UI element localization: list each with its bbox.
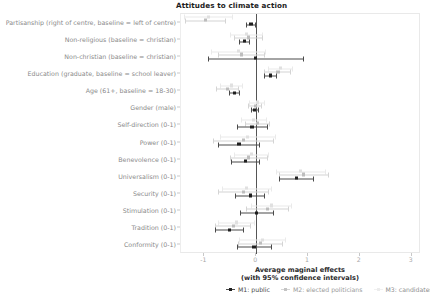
point-estimate-marker — [252, 245, 255, 248]
point-estimate-marker — [249, 22, 252, 25]
estimate-m2-3 — [264, 72, 291, 73]
estimate-m3-10 — [222, 188, 272, 189]
confidence-interval-cap-lo — [230, 32, 231, 37]
legend-item-m2[interactable]: M2: elected politicians — [281, 286, 363, 293]
category-label: Conformity (0-1) — [124, 241, 176, 248]
estimate-m1-11 — [240, 213, 274, 214]
estimate-m3-2 — [211, 51, 266, 52]
estimate-m3-7 — [220, 137, 276, 138]
category-tick-mark — [177, 158, 180, 159]
confidence-interval-cap-lo — [251, 203, 252, 208]
estimate-m1-1 — [239, 41, 250, 42]
confidence-interval-cap-lo — [218, 221, 219, 226]
point-estimate-marker — [249, 194, 252, 197]
confidence-interval-cap-hi — [328, 173, 329, 178]
figure-attitudes-to-climate-action: Attitudes to climate action Partisanship… — [0, 0, 430, 304]
point-estimate-marker — [242, 190, 245, 193]
category-tick-mark — [177, 210, 180, 211]
category-tick-mark — [177, 21, 180, 22]
point-estimate-marker — [269, 74, 272, 77]
plot-area — [180, 13, 420, 253]
confidence-interval-cap-hi — [271, 186, 272, 191]
confidence-interval-cap-hi — [273, 211, 274, 216]
confidence-interval-cap-lo — [240, 211, 241, 216]
category-tick-mark — [177, 73, 180, 74]
confidence-interval-cap-lo — [246, 22, 247, 27]
category-label: Self-direction (0-1) — [117, 121, 176, 128]
category-label: Power (0-1) — [140, 138, 176, 145]
point-estimate-marker — [295, 177, 298, 180]
legend-marker-icon — [226, 287, 235, 292]
legend-label: M3: candidates — [386, 286, 430, 293]
confidence-interval-cap-hi — [285, 238, 286, 243]
x-axis-tick-label: 3 — [409, 256, 413, 263]
confidence-interval-cap-hi — [258, 108, 259, 113]
category-tick-mark — [177, 90, 180, 91]
confidence-interval-cap-hi — [262, 35, 263, 40]
confidence-interval-cap-lo — [237, 125, 238, 130]
estimate-m1-3 — [264, 76, 276, 77]
confidence-interval-cap-lo — [264, 74, 265, 79]
legend-item-m3[interactable]: M3: candidates — [374, 286, 430, 293]
point-estimate-marker — [242, 139, 245, 142]
confidence-interval-cap-hi — [264, 101, 265, 106]
x-axis-title: Average maginal effects (with 95% confid… — [241, 266, 359, 283]
confidence-interval-cap-lo — [268, 66, 269, 71]
estimate-m3-4 — [220, 85, 243, 86]
point-estimate-marker — [266, 207, 269, 210]
confidence-interval-cap-hi — [225, 18, 226, 23]
confidence-interval-cap-hi — [267, 155, 268, 160]
legend-item-m1[interactable]: M1: public — [226, 286, 270, 293]
confidence-interval-cap-hi — [264, 194, 265, 199]
point-estimate-marker — [247, 156, 250, 159]
estimate-m1-0 — [246, 24, 256, 25]
point-estimate-marker — [228, 228, 231, 231]
estimate-m1-9 — [279, 178, 314, 179]
confidence-interval-cap-hi — [269, 121, 270, 126]
category-label: Stimulation (0-1) — [123, 207, 176, 214]
confidence-interval-cap-lo — [251, 108, 252, 113]
confidence-interval-cap-hi — [288, 207, 289, 212]
confidence-interval-cap-hi — [259, 159, 260, 164]
confidence-interval-cap-lo — [218, 142, 219, 147]
confidence-interval-cap-hi — [313, 176, 314, 181]
confidence-interval-cap-hi — [292, 66, 293, 71]
estimate-m1-10 — [235, 196, 265, 197]
confidence-interval-cap-lo — [245, 121, 246, 126]
estimate-m2-8 — [230, 157, 267, 158]
confidence-interval-cap-hi — [255, 22, 256, 27]
zero-reference-line — [256, 14, 257, 254]
point-estimate-marker — [302, 173, 305, 176]
estimate-m1-6 — [237, 127, 268, 128]
confidence-interval-cap-lo — [208, 56, 209, 61]
estimate-m2-7 — [213, 140, 274, 141]
confidence-interval-cap-hi — [268, 152, 269, 157]
point-estimate-marker — [207, 15, 210, 18]
category-label: Education (graduate, baseline = school l… — [28, 70, 176, 77]
estimate-m1-12 — [215, 230, 244, 231]
confidence-interval-cap-lo — [229, 91, 230, 96]
estimate-m3-5 — [249, 103, 265, 104]
confidence-interval-cap-hi — [261, 104, 262, 109]
confidence-interval-cap-lo — [218, 190, 219, 195]
estimate-m1-2 — [208, 58, 304, 59]
confidence-interval-cap-lo — [220, 83, 221, 88]
point-estimate-marker — [235, 221, 238, 224]
point-estimate-marker — [244, 160, 247, 163]
estimate-m3-13 — [239, 240, 286, 241]
confidence-interval-cap-lo — [231, 159, 232, 164]
confidence-interval-cap-lo — [249, 101, 250, 106]
confidence-interval-cap-hi — [250, 224, 251, 229]
confidence-interval-cap-lo — [279, 176, 280, 181]
confidence-interval-cap-hi — [242, 83, 243, 88]
category-tick-mark — [177, 124, 180, 125]
category-label: Non-religious (baseline = christian) — [65, 35, 176, 42]
confidence-interval-cap-hi — [232, 15, 233, 20]
category-tick-mark — [177, 175, 180, 176]
estimate-m3-9 — [276, 171, 326, 172]
estimate-m3-3 — [268, 68, 293, 69]
point-estimate-marker — [230, 84, 233, 87]
estimate-m1-13 — [237, 247, 272, 248]
point-estimate-marker — [204, 19, 207, 22]
category-tick-mark — [177, 107, 180, 108]
